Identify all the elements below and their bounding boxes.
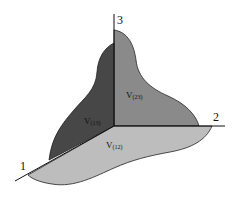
three-axis-panel-diagram: 3 2 1 V(23) V(13) V(12) <box>0 0 237 197</box>
axis-label-3: 3 <box>117 13 123 27</box>
axis-label-2: 2 <box>213 110 219 124</box>
panel-v23 <box>114 30 199 126</box>
axis-label-1: 1 <box>20 159 26 173</box>
